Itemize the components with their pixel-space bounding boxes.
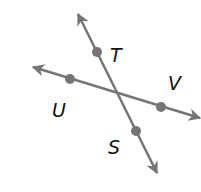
- diagram-canvas: TSUV: [0, 0, 201, 192]
- point-T: [92, 47, 102, 57]
- label-U: U: [52, 99, 66, 121]
- label-T: T: [110, 44, 123, 66]
- point-V: [156, 102, 166, 112]
- label-V: V: [168, 72, 183, 94]
- intersecting-lines-diagram: TSUV: [0, 0, 201, 192]
- point-S: [131, 126, 141, 136]
- point-U: [65, 74, 75, 84]
- label-S: S: [108, 136, 120, 158]
